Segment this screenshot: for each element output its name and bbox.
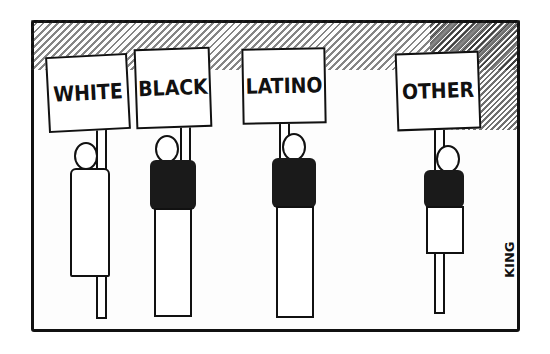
sign-label: WHITE xyxy=(53,79,124,107)
figure-black-legs xyxy=(154,208,192,317)
sign-white: WHITE xyxy=(45,53,131,133)
sign-label: OTHER xyxy=(401,78,474,105)
figure-other-skirt xyxy=(426,206,464,254)
figure-latino-torso xyxy=(272,158,316,208)
sign-label: LATINO xyxy=(245,73,322,98)
figure-latino-legs xyxy=(276,206,314,318)
sign-label: BLACK xyxy=(138,75,208,101)
figure-head xyxy=(74,142,98,170)
sign-latino: LATINO xyxy=(241,47,326,124)
sign-other: OTHER xyxy=(395,51,482,132)
figure-white xyxy=(70,168,110,277)
figure-head xyxy=(436,145,460,173)
figure-head xyxy=(155,135,179,163)
figure-black-torso xyxy=(150,160,196,210)
figure-other-torso xyxy=(424,170,464,208)
artist-signature: KING xyxy=(502,242,517,278)
sign-black: BLACK xyxy=(134,47,213,130)
figure-head xyxy=(282,133,306,161)
